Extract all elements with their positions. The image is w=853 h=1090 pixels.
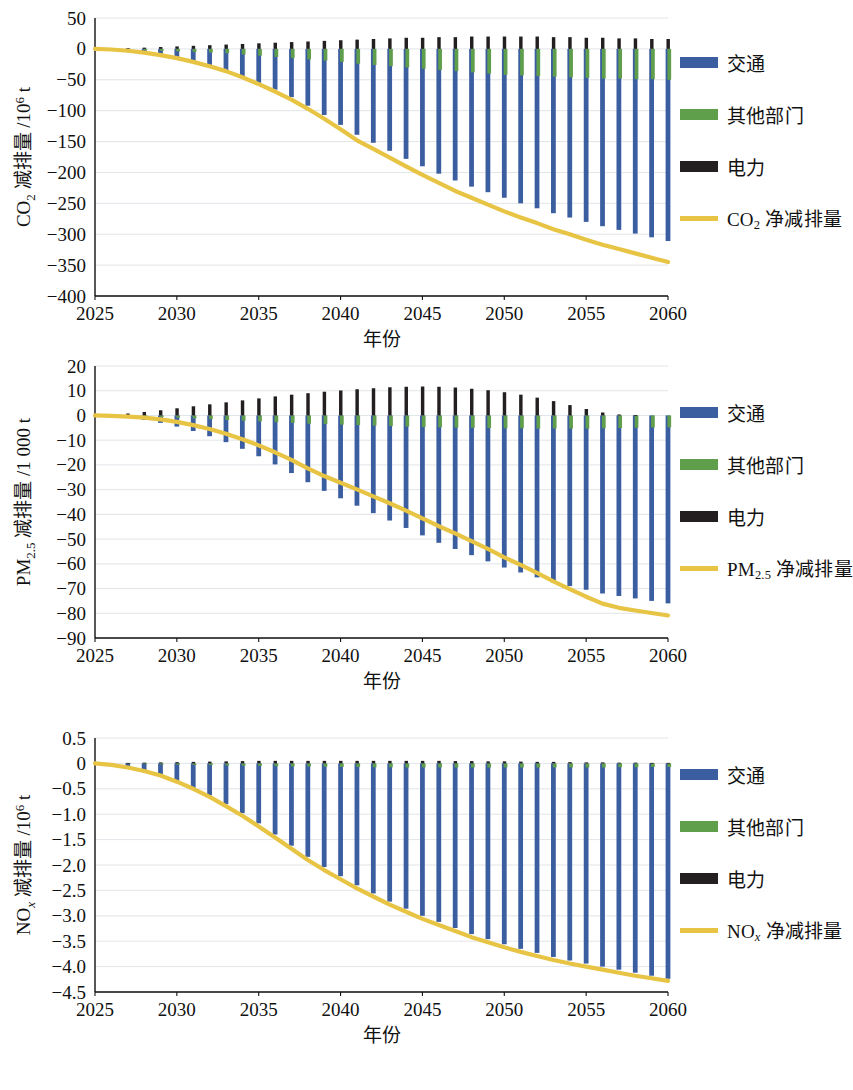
- legend-item-power[interactable]: 电力: [680, 140, 842, 192]
- x-tick-label: 2045: [403, 303, 441, 324]
- legend-item-net-pm25[interactable]: PM2.5 净减排量: [680, 542, 853, 594]
- bar-other-sectors: [569, 415, 573, 428]
- net-emission-line: [95, 415, 668, 615]
- legend-item-net-co2[interactable]: CO2 净减排量: [680, 192, 842, 244]
- bar-other-sectors: [667, 763, 671, 767]
- x-tick-label: 2040: [322, 303, 360, 324]
- y-tick-label: 0.5: [62, 728, 86, 749]
- bar-other-sectors: [618, 415, 622, 428]
- x-tick-label: 2025: [76, 999, 114, 1020]
- bar-power: [372, 39, 375, 49]
- bar-power: [241, 400, 244, 415]
- legend-swatch-transport: [680, 407, 718, 418]
- bar-other-sectors: [520, 49, 524, 76]
- bar-other-sectors: [356, 415, 360, 425]
- bar-power: [143, 763, 146, 764]
- bar-power: [421, 761, 424, 764]
- legend-swatch-other-sectors: [680, 821, 718, 832]
- bar-power: [192, 406, 195, 415]
- bar-power: [568, 37, 571, 49]
- bar-power: [470, 389, 473, 416]
- net-label-prefix: NO: [727, 921, 755, 942]
- legend-item-other-sectors[interactable]: 其他部门: [680, 800, 842, 852]
- legend-label-other-sectors: 其他部门: [727, 451, 804, 478]
- bar-power: [454, 761, 457, 763]
- bar-transport: [486, 415, 491, 561]
- bar-power: [585, 38, 588, 49]
- bar-other-sectors: [242, 415, 246, 420]
- bar-other-sectors: [144, 49, 148, 50]
- legend-item-other-sectors[interactable]: 其他部门: [680, 88, 842, 140]
- legend-item-transport[interactable]: 交通: [680, 386, 853, 438]
- legend-label-net-co2: CO2 净减排量: [727, 204, 842, 233]
- bar-power: [552, 401, 555, 415]
- legend-item-power[interactable]: 电力: [680, 852, 842, 904]
- legend-swatch-power: [680, 873, 718, 884]
- y-tick-label: −150: [47, 131, 86, 152]
- legend-label-other-sectors: 其他部门: [727, 813, 804, 840]
- bar-transport: [518, 415, 523, 572]
- bar-power: [552, 37, 555, 49]
- bar-transport: [584, 763, 589, 963]
- legend-item-transport[interactable]: 交通: [680, 748, 842, 800]
- bar-other-sectors: [504, 49, 508, 75]
- x-axis-title: 年份: [363, 1025, 401, 1046]
- y-tick-label: −70: [56, 578, 86, 599]
- legend-item-power[interactable]: 电力: [680, 490, 853, 542]
- y-tick-label: −40: [56, 504, 86, 525]
- bar-power: [257, 43, 260, 49]
- bar-transport: [666, 763, 671, 978]
- bar-transport: [355, 763, 360, 885]
- bar-transport: [633, 415, 638, 598]
- legend-co2: 交通 其他部门 电力 CO2 净减排量: [680, 36, 842, 244]
- legend-item-net-nox[interactable]: NOx 净减排量: [680, 904, 842, 956]
- bar-power: [650, 39, 653, 49]
- bar-other-sectors: [471, 415, 475, 427]
- bar-power: [241, 44, 244, 49]
- bar-power: [486, 390, 489, 415]
- bar-transport: [256, 415, 261, 456]
- bar-power: [323, 392, 326, 416]
- bar-power: [306, 41, 309, 48]
- bar-power: [503, 37, 506, 49]
- bar-other-sectors: [471, 49, 475, 72]
- bar-other-sectors: [553, 763, 557, 767]
- bar-power: [666, 763, 669, 764]
- y-tick-label: 50: [67, 8, 86, 29]
- bar-power: [339, 390, 342, 415]
- bar-other-sectors: [291, 415, 295, 422]
- bar-power: [519, 395, 522, 416]
- legend-item-other-sectors[interactable]: 其他部门: [680, 438, 853, 490]
- bar-power: [536, 37, 539, 49]
- bar-transport: [551, 763, 556, 957]
- legend-swatch-net-co2: [680, 216, 718, 221]
- bar-power: [617, 38, 620, 49]
- bar-other-sectors: [340, 763, 344, 767]
- bar-transport: [469, 763, 474, 934]
- legend-item-transport[interactable]: 交通: [680, 36, 842, 88]
- bar-other-sectors: [275, 415, 279, 422]
- bar-power: [552, 762, 555, 764]
- net-label-prefix: PM: [727, 559, 755, 580]
- y-tick-label: −20: [56, 454, 86, 475]
- y-tick-label: 10: [67, 380, 86, 401]
- bar-other-sectors: [373, 763, 377, 767]
- bar-transport: [535, 415, 540, 577]
- bar-power: [290, 761, 293, 764]
- bar-other-sectors: [356, 49, 360, 64]
- bar-other-sectors: [504, 415, 508, 428]
- legend-label-power: 电力: [727, 153, 765, 180]
- legend-swatch-power: [680, 161, 718, 172]
- bar-power: [486, 37, 489, 49]
- bar-transport: [666, 415, 671, 603]
- legend-swatch-net-nox: [680, 928, 718, 933]
- x-tick-label: 2030: [158, 303, 196, 324]
- bar-other-sectors: [291, 49, 295, 58]
- x-tick-label: 2035: [240, 999, 278, 1020]
- x-tick-label: 2025: [76, 303, 114, 324]
- bar-power: [143, 412, 146, 415]
- bar-transport: [420, 763, 425, 915]
- bar-other-sectors: [373, 49, 377, 65]
- y-tick-label: −0.5: [52, 778, 86, 799]
- bar-power: [372, 761, 375, 764]
